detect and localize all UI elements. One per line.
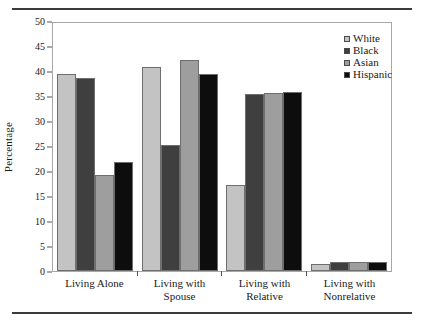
y-axis-tick-mark <box>47 47 52 48</box>
bar-white-living-alone <box>57 74 76 271</box>
top-divider-rule <box>12 8 412 10</box>
legend-item-label: White <box>353 33 380 44</box>
legend-item-label: Black <box>353 45 379 56</box>
x-axis-group-separator <box>306 271 307 276</box>
legend-swatch-icon <box>344 72 350 78</box>
legend-swatch-icon <box>344 60 350 66</box>
bar-group <box>222 23 307 271</box>
bar-white-living-with-spouse <box>142 67 161 271</box>
bar-hispanic-living-alone <box>114 162 133 271</box>
y-axis-tick-mark <box>47 72 52 73</box>
y-axis-tick-mark <box>47 222 52 223</box>
bar-white-living-with-nonrelative <box>311 264 330 271</box>
bar-hispanic-living-with-relative <box>283 92 302 271</box>
y-axis-tick-mark <box>47 147 52 148</box>
legend-item-label: Hispanic <box>353 69 392 80</box>
legend-item-asian: Asian <box>344 57 392 68</box>
bar-asian-living-with-nonrelative <box>349 262 368 271</box>
chart-legend: WhiteBlackAsianHispanic <box>344 33 392 80</box>
legend-item-hispanic: Hispanic <box>344 69 392 80</box>
legend-swatch-icon <box>344 48 350 54</box>
legend-item-black: Black <box>344 45 392 56</box>
bar-group <box>53 23 138 271</box>
bar-groups <box>53 23 391 271</box>
bar-hispanic-living-with-spouse <box>199 74 218 271</box>
bar-group <box>138 23 223 271</box>
y-axis-tick-mark <box>47 172 52 173</box>
x-axis-category-label: Living withRelative <box>222 277 307 303</box>
bar-black-living-with-relative <box>245 94 264 271</box>
bar-asian-living-with-spouse <box>180 60 199 271</box>
bar-black-living-alone <box>76 78 95 271</box>
y-axis-tick-mark <box>47 122 52 123</box>
x-axis-group-separator <box>137 271 138 276</box>
y-axis-tick-mark <box>47 247 52 248</box>
x-axis-category-label: Living withNonrelative <box>307 277 392 303</box>
x-axis-category-label: Living Alone <box>52 277 137 303</box>
x-axis-group-separator <box>221 271 222 276</box>
y-axis-tick-mark <box>47 22 52 23</box>
y-axis-tick-mark <box>47 197 52 198</box>
bar-black-living-with-spouse <box>161 145 180 271</box>
y-axis-tick-mark <box>47 97 52 98</box>
bottom-divider-rule <box>12 312 412 314</box>
legend-item-white: White <box>344 33 392 44</box>
x-axis-labels: Living AloneLiving withSpouseLiving with… <box>52 277 392 303</box>
y-axis-title: Percentage <box>2 122 14 172</box>
x-axis-category-label: Living withSpouse <box>137 277 222 303</box>
legend-item-label: Asian <box>353 57 379 68</box>
y-axis-tick-mark <box>47 272 52 273</box>
bar-asian-living-alone <box>95 175 114 271</box>
bar-white-living-with-relative <box>226 185 245 271</box>
bar-black-living-with-nonrelative <box>330 262 349 271</box>
legend-swatch-icon <box>344 36 350 42</box>
bar-chart: Percentage 05101520253035404550 <box>52 22 392 272</box>
bar-hispanic-living-with-nonrelative <box>368 262 387 271</box>
bar-asian-living-with-relative <box>264 93 283 271</box>
